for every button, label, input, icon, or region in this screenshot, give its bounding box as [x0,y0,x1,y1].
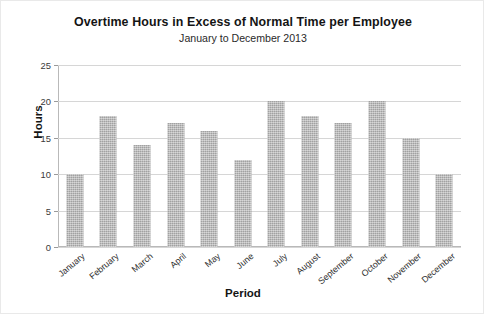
bar-slot [260,65,294,247]
x-axis-tick-label: April [168,251,188,270]
bar [369,101,386,247]
bar-slot [394,65,428,247]
y-axis-tick-label: 5 [46,205,51,216]
bar [201,131,218,247]
x-axis-tick-label: June [234,251,255,271]
x-axis-tick-label: September [316,251,355,286]
bar [268,101,285,247]
x-axis-title: Period [1,287,484,299]
bar-slot [427,65,461,247]
bar [167,123,184,247]
x-axis-tick-label: January [57,251,87,279]
y-axis-tick-label: 25 [41,60,51,71]
y-axis-tick-label: 20 [41,96,51,107]
bar-series [58,65,461,247]
bar [100,116,117,247]
bar [301,116,318,247]
x-axis-tick-label: August [295,251,322,276]
y-axis-tick-mark [54,247,58,248]
gridline [58,247,461,248]
bar-slot [58,65,92,247]
x-axis-tick-label: February [87,251,120,281]
y-axis-tick-label: 15 [41,132,51,143]
bar-slot [159,65,193,247]
chart-title-block: Overtime Hours in Excess of Normal Time … [1,15,484,45]
bar-slot [125,65,159,247]
x-axis-tick-label: October [359,251,389,279]
bar [133,145,150,247]
bar-slot [327,65,361,247]
bar-slot [360,65,394,247]
x-axis-tick-label: May [202,251,221,269]
bar [436,174,453,247]
chart-subtitle: January to December 2013 [1,31,484,45]
y-axis-tick-label: 10 [41,169,51,180]
x-axis-tick-label: July [270,251,288,269]
bar-slot [226,65,260,247]
bar [234,160,251,247]
bar-chart-figure: Overtime Hours in Excess of Normal Time … [0,0,484,314]
bar-slot [293,65,327,247]
x-axis-tick-label: December [419,251,457,285]
x-axis-tick-label: November [386,251,424,285]
bar-slot [192,65,226,247]
bar-slot [92,65,126,247]
chart-title: Overtime Hours in Excess of Normal Time … [1,15,484,30]
x-axis-tick-label: March [129,251,154,274]
plot-area: 0510152025 JanuaryFebruaryMarchAprilMayJ… [58,65,461,247]
bar [335,123,352,247]
y-axis-tick-label: 0 [46,242,51,253]
bar [402,138,419,247]
bar [66,174,83,247]
